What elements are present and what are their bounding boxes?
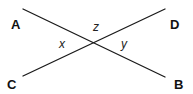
point-label-a: A <box>11 17 21 32</box>
point-label-c: C <box>7 77 17 92</box>
point-label-d: D <box>170 17 179 32</box>
angle-label-y: y <box>120 37 128 51</box>
angle-label-z: z <box>92 20 99 34</box>
point-label-b: B <box>174 77 183 92</box>
angle-label-x: x <box>58 37 66 51</box>
intersecting-lines-diagram: A D C B z x y <box>0 0 193 94</box>
